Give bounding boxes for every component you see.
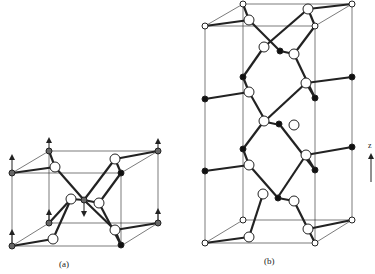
z-axis-label: z: [368, 141, 372, 150]
panel-a-structure: [9, 140, 161, 249]
panel-a-label: (a): [59, 259, 69, 269]
crystal-structure-figure: (a) (b) z: [0, 0, 375, 274]
panel-b-structure: [202, 1, 355, 246]
panel-b-label: (b): [264, 256, 275, 266]
figure-drawing: [0, 0, 375, 274]
